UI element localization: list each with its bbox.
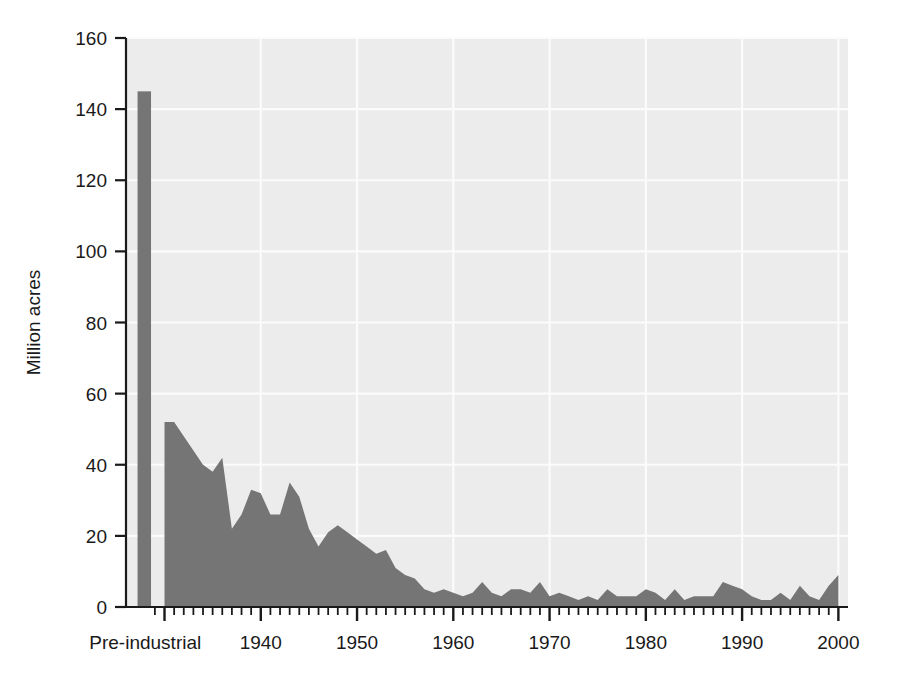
x-tick-label: 1990: [721, 632, 763, 653]
x-tick-label: Pre-industrial: [89, 632, 201, 653]
pre-industrial-bar: [138, 91, 151, 607]
y-tick-label: 120: [75, 170, 107, 191]
y-tick-label: 20: [86, 526, 107, 547]
y-axis-title: Million acres: [23, 270, 44, 376]
x-tick-label: 1960: [432, 632, 474, 653]
y-tick-label: 60: [86, 384, 107, 405]
y-tick-label: 40: [86, 455, 107, 476]
x-tick-label: 1970: [528, 632, 570, 653]
x-tick-label: 1950: [336, 632, 378, 653]
y-tick-label: 160: [75, 28, 107, 49]
y-tick-label: 140: [75, 99, 107, 120]
area-chart: 160140120100806040200 Pre-industrial1940…: [0, 0, 901, 677]
y-tick-label: 80: [86, 313, 107, 334]
x-tick-label: 2000: [817, 632, 859, 653]
x-tick-label: 1940: [240, 632, 282, 653]
y-tick-label: 100: [75, 241, 107, 262]
chart-container: 160140120100806040200 Pre-industrial1940…: [0, 0, 901, 677]
x-tick-label: 1980: [625, 632, 667, 653]
y-tick-label: 0: [96, 597, 107, 618]
